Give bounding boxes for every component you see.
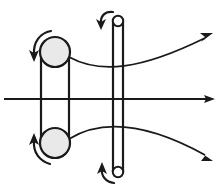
roller-top-cap [113, 16, 123, 26]
axis-arrow [4, 95, 215, 103]
roller-shaft [113, 21, 123, 172]
lower-path-arrow-shaft [69, 127, 205, 155]
upper-path-arrowhead-icon [200, 33, 213, 42]
rotation-arrow-top-right [96, 12, 113, 30]
lower-path-arrow [69, 127, 213, 161]
pulley-bottom-left [40, 128, 70, 158]
rotation-arrow-bottom-right [97, 162, 114, 183]
upper-path-arrow [69, 33, 213, 67]
belt-pulley-diagram [0, 0, 221, 195]
upper-path-arrow-shaft [69, 38, 205, 67]
lower-path-arrowhead-icon [200, 152, 213, 161]
pulley-top-left [40, 37, 70, 67]
roller-bottom-cap [113, 167, 123, 177]
diagram-canvas [0, 0, 221, 195]
